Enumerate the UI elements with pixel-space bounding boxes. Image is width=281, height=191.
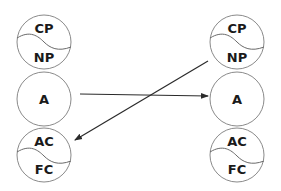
- label-np: NP: [227, 50, 247, 65]
- left-top-node: CP NP: [17, 15, 71, 69]
- label-ac: AC: [227, 134, 247, 149]
- label-ac: AC: [34, 134, 54, 149]
- label-fc: FC: [228, 162, 246, 177]
- label-a: A: [232, 92, 242, 107]
- arrow-a-to-a: [80, 94, 208, 96]
- left-bottom-node: AC FC: [17, 128, 71, 182]
- label-fc: FC: [35, 162, 53, 177]
- right-bottom-node: AC FC: [210, 128, 264, 182]
- diagram-canvas: CP NP A AC FC CP NP A AC FC: [0, 0, 281, 191]
- arrow-np-to-ac: [75, 61, 208, 140]
- label-cp: CP: [227, 21, 246, 36]
- right-top-node: CP NP: [210, 15, 264, 69]
- right-middle-node: A: [210, 72, 264, 126]
- label-a: A: [39, 92, 49, 107]
- label-cp: CP: [34, 21, 53, 36]
- left-middle-node: A: [17, 72, 71, 126]
- label-np: NP: [34, 50, 54, 65]
